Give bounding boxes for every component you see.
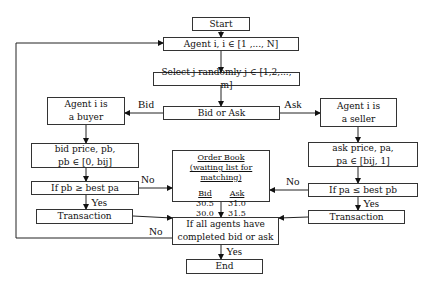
edge-label-no-left: No xyxy=(141,173,154,185)
agent-loop-node: Agent i, i ∈ [1 ,..., N] xyxy=(163,37,299,51)
order-book-cell: 31.0 xyxy=(223,199,251,209)
order-book-header-bid: Bid xyxy=(191,189,219,199)
order-book-title: Order Book xyxy=(198,153,245,163)
bid-price-label-2: pb ∈ [0, bij] xyxy=(58,156,112,169)
order-book-cell: 30.5 xyxy=(191,199,219,209)
order-book-header-ask: Ask xyxy=(223,189,251,199)
ask-price-label-1: ask price, pa, xyxy=(332,142,393,155)
transaction-right-label: Transaction xyxy=(329,211,383,224)
bid-price-label-1: bid price, pb, xyxy=(55,143,116,156)
edge-label-no-right: No xyxy=(286,175,299,187)
bid-price-node: bid price, pb, pb ∈ [0, bij] xyxy=(31,143,139,168)
if-pa-label: If pa ≤ best pb xyxy=(329,184,397,197)
buyer-label-2: a buyer xyxy=(69,111,104,124)
if-pa-node: If pa ≤ best pb xyxy=(308,183,418,197)
edge-label-bid: Bid xyxy=(138,98,154,110)
select-j-label: Select j randomly j ∈ [1,2,..., m] xyxy=(154,66,299,92)
ask-price-label-2: pa ∈ [bij, 1] xyxy=(336,155,389,168)
order-book-table: Bid Ask 30.5 31.0 30.0 31.5 xyxy=(191,189,251,219)
order-book-node: Order Book (waiting list for matching) B… xyxy=(172,150,270,202)
agent-loop-label: Agent i, i ∈ [1 ,..., N] xyxy=(184,38,278,51)
all-done-label-2: completed bid or ask xyxy=(178,231,274,244)
transaction-left-node: Transaction xyxy=(36,209,133,224)
select-j-node: Select j randomly j ∈ [1,2,..., m] xyxy=(153,72,300,86)
edge-label-yes-left: Yes xyxy=(91,196,107,208)
all-done-label-1: If all agents have xyxy=(186,218,265,231)
edge-label-yes-end: Yes xyxy=(226,245,242,257)
seller-node: Agent i is a seller xyxy=(320,98,397,127)
edge-label-ask: Ask xyxy=(284,98,302,110)
end-node: End xyxy=(186,259,263,274)
order-book-subtitle: (waiting list for matching) xyxy=(173,163,269,183)
bid-or-ask-label: Bid or Ask xyxy=(198,107,245,120)
edge-label-no-loop: No xyxy=(149,225,162,237)
all-done-node: If all agents have completed bid or ask xyxy=(172,217,279,245)
start-label: Start xyxy=(209,18,232,31)
if-pb-node: If pb ≥ best pa xyxy=(31,181,139,195)
seller-label-2: a seller xyxy=(342,113,376,126)
transaction-left-label: Transaction xyxy=(57,210,111,223)
start-node: Start xyxy=(192,17,250,31)
buyer-label-1: Agent i is xyxy=(64,98,107,111)
seller-label-1: Agent i is xyxy=(337,100,380,113)
edge-label-yes-right: Yes xyxy=(363,197,379,209)
if-pb-label: If pb ≥ best pa xyxy=(51,182,119,195)
buyer-node: Agent i is a buyer xyxy=(47,97,125,125)
end-label: End xyxy=(215,260,233,273)
transaction-right-node: Transaction xyxy=(308,210,405,224)
ask-price-node: ask price, pa, pa ∈ [bij, 1] xyxy=(308,142,418,167)
bid-or-ask-node: Bid or Ask xyxy=(163,106,280,120)
